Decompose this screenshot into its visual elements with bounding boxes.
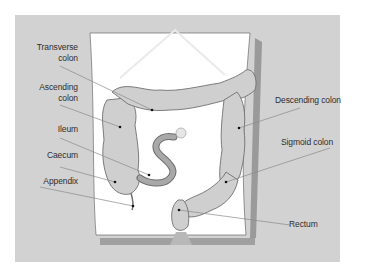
label-transverse-colon: Transverse colon	[20, 42, 78, 64]
torso-shadow	[250, 38, 262, 238]
label-ileum: Ileum	[20, 124, 78, 135]
label-line: colon	[20, 53, 78, 64]
label-line: colon	[20, 93, 78, 104]
label-descending-colon: Descending colon	[275, 95, 341, 106]
navel	[176, 128, 186, 138]
label-caecum: Caecum	[20, 150, 78, 161]
label-appendix: Appendix	[20, 176, 78, 187]
label-rectum: Rectum	[289, 219, 318, 230]
label-line: Ascending	[20, 82, 78, 93]
label-line: Transverse	[20, 42, 78, 53]
label-ascending-colon: Ascending colon	[20, 82, 78, 104]
label-sigmoid-colon: Sigmoid colon	[281, 137, 333, 148]
